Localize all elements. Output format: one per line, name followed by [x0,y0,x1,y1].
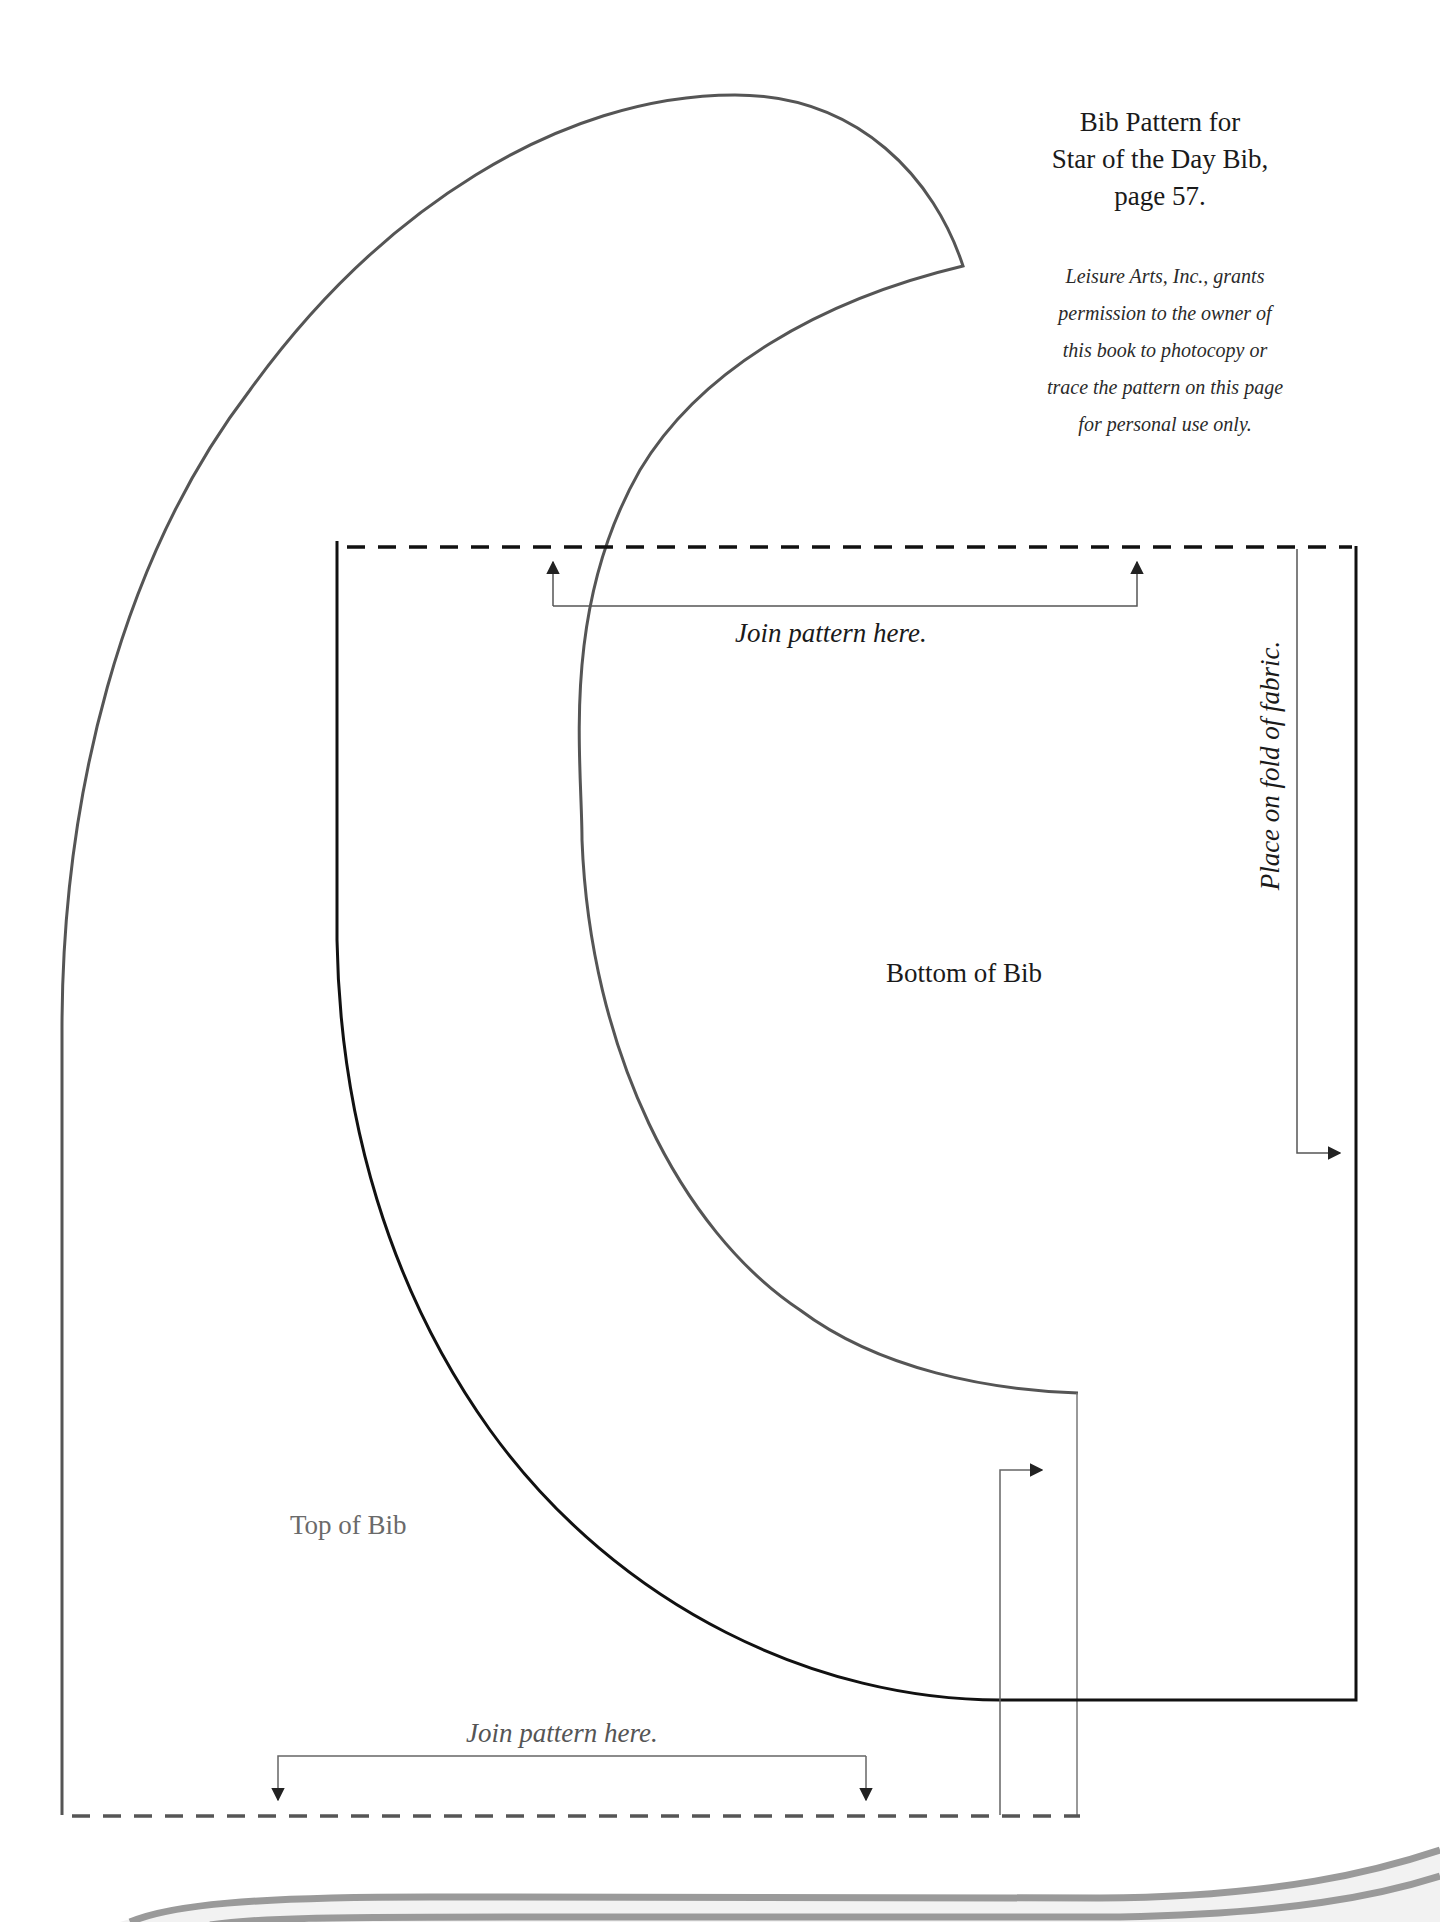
top-join-bracket-right [553,562,1137,606]
permission-notice: Leisure Arts, Inc., grants permission to… [1000,258,1330,443]
bottom-of-bib-outline [337,541,1356,1700]
top-of-bib-label: Top of Bib [290,1510,407,1541]
fold-label: Place on fold of fabric. [1255,606,1286,926]
permission-line-5: for personal use only. [1000,406,1330,443]
fold-indicator-bottom-piece [1297,549,1340,1153]
fold-indicator-top-piece [1000,1470,1042,1815]
title-line-3: page 57. [1010,178,1310,215]
page-title: Bib Pattern for Star of the Day Bib, pag… [1010,104,1310,215]
permission-line-1: Leisure Arts, Inc., grants [1000,258,1330,295]
permission-line-3: this book to photocopy or [1000,332,1330,369]
permission-line-2: permission to the owner of [1000,295,1330,332]
bottom-join-label: Join pattern here. [466,1718,658,1749]
title-line-1: Bib Pattern for [1010,104,1310,141]
top-join-label: Join pattern here. [735,618,927,649]
title-line-2: Star of the Day Bib, [1010,141,1310,178]
bottom-of-bib-label: Bottom of Bib [886,958,1042,989]
bottom-join-bracket-left [278,1756,866,1800]
permission-line-4: trace the pattern on this page [1000,369,1330,406]
top-of-bib-outline [62,95,1078,1815]
